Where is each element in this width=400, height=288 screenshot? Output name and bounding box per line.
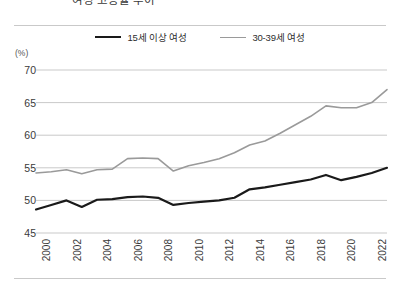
x-tick-2018: 2018 [316, 239, 327, 261]
y-tick-60: 60 [14, 129, 36, 141]
legend-label-1: 30-39세 여성 [252, 30, 304, 44]
figure-title-clipped: 여성 고용률 추이 [0, 0, 400, 14]
legend-swatch-0 [95, 36, 121, 38]
gridlines [36, 70, 387, 233]
y-tick-50: 50 [14, 194, 36, 206]
y-tick-55: 55 [14, 162, 36, 174]
y-tick-65: 65 [14, 97, 36, 109]
bottom-divider [14, 278, 386, 279]
chart-svg [36, 70, 387, 233]
x-tick-2020: 2020 [346, 239, 357, 261]
legend-item-1: 30-39세 여성 [220, 30, 304, 44]
plot-area [36, 70, 387, 233]
x-tick-2008: 2008 [163, 239, 174, 261]
legend-swatch-1 [220, 37, 246, 38]
top-divider [14, 25, 386, 26]
x-tick-2014: 2014 [255, 239, 266, 261]
series-line-0 [36, 168, 387, 210]
legend-label-0: 15세 이상 여성 [127, 30, 186, 44]
y-axis-unit-label: (%) [15, 48, 28, 58]
x-tick-2000: 2000 [41, 239, 52, 261]
x-tick-2004: 2004 [102, 239, 113, 261]
x-tick-2010: 2010 [194, 239, 205, 261]
x-tick-2006: 2006 [133, 239, 144, 261]
chart-legend: 15세 이상 여성30-39세 여성 [0, 27, 400, 47]
series-lines [36, 90, 387, 210]
x-tick-2022: 2022 [377, 239, 388, 261]
y-tick-45: 45 [14, 227, 36, 239]
legend-item-0: 15세 이상 여성 [95, 30, 186, 44]
x-tick-2002: 2002 [72, 239, 83, 261]
chart-figure: 여성 고용률 추이 15세 이상 여성30-39세 여성 (%) 7065605… [0, 0, 400, 288]
x-tick-2012: 2012 [224, 239, 235, 261]
figure-title-text: 여성 고용률 추이 [72, 0, 155, 7]
x-tick-2016: 2016 [285, 239, 296, 261]
y-tick-70: 70 [14, 64, 36, 76]
